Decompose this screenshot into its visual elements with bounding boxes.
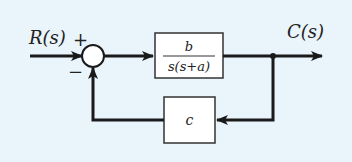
feedback-path-left [93, 68, 164, 120]
block-diagram: R(s) C(s) + − b s(s+a) c [0, 0, 352, 162]
feedback-path-right [217, 56, 273, 120]
minus-sign: − [68, 61, 83, 82]
forward-numerator: b [185, 39, 193, 54]
plus-sign: + [73, 29, 88, 50]
output-label: C(s) [287, 21, 324, 42]
forward-denominator: s(s+a) [168, 59, 210, 74]
input-label: R(s) [28, 27, 66, 48]
feedback-gain: c [186, 112, 194, 128]
